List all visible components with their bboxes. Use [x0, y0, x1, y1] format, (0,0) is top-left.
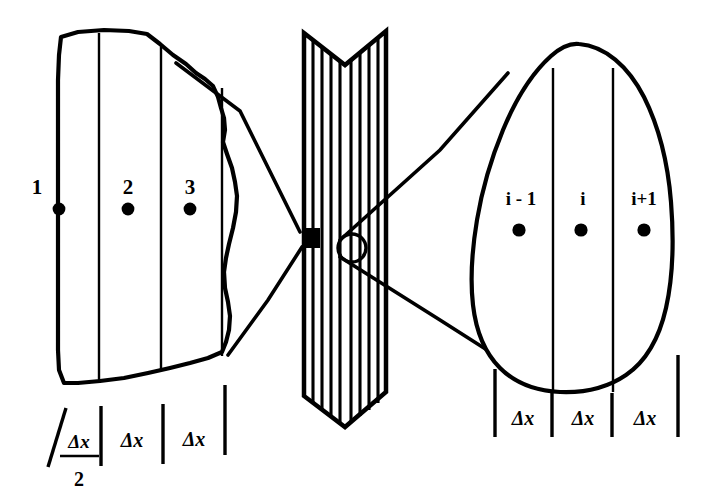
right-node-dot-i-plus-1 — [637, 223, 650, 236]
left-scale-slash — [48, 408, 66, 467]
boundary-zoom-marker-square — [303, 229, 319, 247]
left-node-dot-2 — [122, 203, 135, 216]
boundary-zoom-marker — [303, 229, 319, 247]
right-spacing-label-1: Δx — [511, 407, 535, 429]
right-spacing-label-2: Δx — [571, 407, 595, 429]
right-node-dot-i-minus-1 — [512, 223, 525, 236]
diagram-canvas: 1 2 3 Δx 2 Δx Δx — [0, 0, 719, 503]
left-node-label-1: 1 — [32, 175, 43, 199]
right-detail-outline — [472, 44, 673, 392]
grid-discretization-diagram: 1 2 3 Δx 2 Δx Δx — [0, 0, 719, 503]
left-spacing-denominator-1: 2 — [74, 468, 84, 490]
left-spacing-numerator-1: Δx — [67, 431, 90, 452]
left-detail-group: 1 2 3 Δx 2 Δx Δx — [32, 30, 237, 490]
left-node-dot-3 — [184, 203, 197, 216]
left-spacing-fraction-1: Δx 2 — [60, 431, 99, 490]
right-node-label-i: i — [580, 188, 585, 209]
left-node-label-2: 2 — [123, 175, 134, 199]
left-detail-outline — [58, 30, 237, 383]
left-leader-lower — [228, 247, 302, 355]
center-slab-group — [303, 31, 386, 427]
left-node-label-3: 3 — [185, 175, 196, 199]
right-spacing-label-3: Δx — [633, 407, 657, 429]
left-node-dot-1 — [53, 203, 66, 216]
right-node-label-i-minus-1: i - 1 — [506, 188, 537, 209]
right-node-dot-i — [574, 223, 587, 236]
left-spacing-label-3: Δx — [182, 428, 206, 450]
right-detail-group: i - 1 i i+1 Δx Δx Δx — [472, 44, 678, 437]
right-node-label-i-plus-1: i+1 — [631, 188, 657, 209]
left-spacing-label-2: Δx — [120, 429, 144, 451]
